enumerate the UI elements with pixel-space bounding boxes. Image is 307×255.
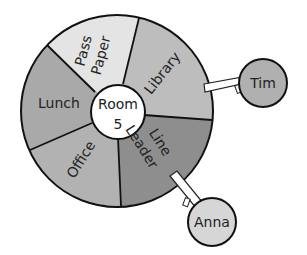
tag-tim-label: Tim [249,75,276,91]
center-label-line1: Room [98,96,138,112]
tag-anna[interactable]: Anna [188,198,236,246]
tag-anna-label: Anna [194,214,230,230]
center-label-line2: 5 [114,116,123,132]
label-lunch: Lunch [38,95,80,111]
job-wheel-diagram: Tim Anna Room 5 Pass Paper Library Line … [0,0,307,255]
tag-tim[interactable]: Tim [239,59,287,107]
svg-text:Lunch: Lunch [38,95,80,111]
